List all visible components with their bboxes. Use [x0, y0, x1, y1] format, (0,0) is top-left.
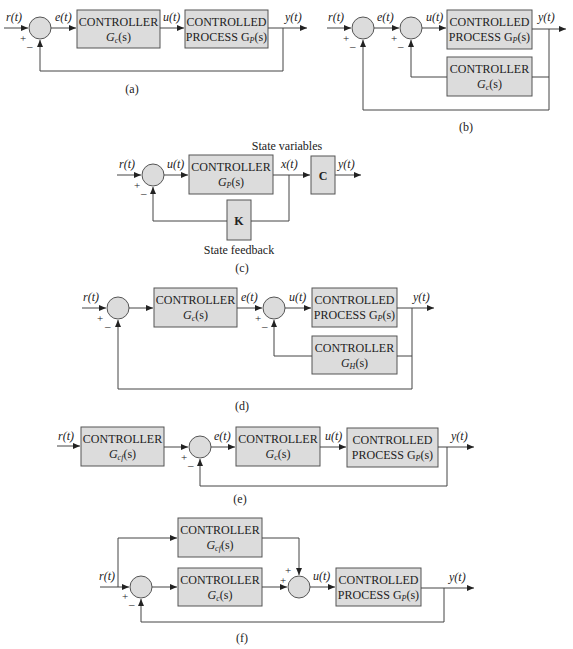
signal-r: r(t) [83, 290, 99, 304]
block-label: CONTROLLED [187, 15, 267, 29]
transfer-function: PROCESS GP(s) [449, 30, 530, 45]
signal-e: e(t) [55, 10, 72, 24]
minus-sign: – [397, 40, 404, 52]
control-configurations-figure: r(t) e(t) u(t) y(t) + – CONTROLLER Gc(s)… [0, 0, 573, 649]
summing-junction-control [288, 576, 310, 598]
signal-r: r(t) [6, 10, 22, 24]
summing-junction-outer [107, 297, 129, 319]
signal-x: x(t) [280, 157, 298, 171]
signal-e: e(t) [214, 429, 231, 443]
transfer-function: PROCESS GP(s) [314, 308, 395, 323]
block-label: CONTROLLER [191, 160, 270, 174]
summing-junction-outer [352, 17, 374, 39]
minus-sign: – [187, 459, 194, 471]
block-label-k: K [234, 214, 244, 228]
signal-y: y(t) [337, 157, 355, 171]
block-label: CONTROLLED [353, 433, 433, 447]
minus-sign: – [104, 320, 111, 332]
summing-junction-inner [263, 297, 285, 319]
diagram-c: r(t) u(t) x(t) y(t) + – State variables … [117, 139, 361, 275]
minus-sign: – [140, 187, 147, 199]
signal-y: y(t) [448, 570, 466, 584]
diagram-a: r(t) e(t) u(t) y(t) + – CONTROLLER Gc(s)… [4, 10, 307, 96]
minus-sign: – [261, 320, 268, 332]
signal-e: e(t) [377, 10, 394, 24]
block-label: CONTROLLER [315, 341, 394, 355]
state-feedback-label: State feedback [204, 243, 274, 257]
minus-sign: – [26, 40, 33, 52]
block-label: CONTROLLER [83, 432, 162, 446]
summing-junction [142, 164, 164, 186]
block-label: CONTROLLER [238, 432, 317, 446]
signal-r: r(t) [58, 429, 74, 443]
signal-u: u(t) [426, 10, 443, 24]
signal-u: u(t) [163, 10, 180, 24]
summing-junction [29, 17, 51, 39]
plus-sign: + [20, 32, 26, 44]
signal-r: r(t) [99, 569, 115, 583]
signal-y: y(t) [450, 429, 468, 443]
block-label-c: C [319, 169, 328, 183]
signal-r: r(t) [119, 157, 135, 171]
block-label: CONTROLLED [315, 293, 395, 307]
signal-y: y(t) [412, 290, 430, 304]
signal-y: y(t) [284, 10, 302, 24]
caption: (e) [233, 492, 246, 506]
signal-y: y(t) [537, 10, 555, 24]
transfer-function: GP(s) [218, 175, 244, 190]
transfer-function: Gc(s) [477, 77, 502, 92]
diagram-b: r(t) e(t) u(t) y(t) + – + – CONTROLLED P… [327, 10, 566, 134]
block-label: CONTROLLER [156, 293, 235, 307]
caption: (d) [235, 399, 249, 413]
diagram-f: r(t) u(t) y(t) + – + + CONTROLLER Gcf(s)… [99, 518, 474, 645]
plus-sign: + [181, 451, 187, 463]
transfer-function: Gcf(s) [109, 447, 136, 462]
caption: (c) [235, 261, 248, 275]
diagram-d: r(t) e(t) u(t) y(t) + – + – CONTROLLER G… [82, 288, 434, 413]
diagram-e: r(t) e(t) u(t) y(t) + – CONTROLLER Gcf(s… [57, 427, 474, 506]
summing-junction [189, 436, 211, 458]
plus-sign: + [255, 312, 261, 324]
signal-u: u(t) [313, 569, 330, 583]
block-label: CONTROLLER [79, 15, 158, 29]
plus-sign: + [122, 590, 128, 602]
signal-r: r(t) [328, 10, 344, 24]
block-label: CONTROLLER [450, 62, 529, 76]
block-label: CONTROLLER [180, 573, 259, 587]
plus-sign: + [134, 179, 140, 191]
inner-feedback-path [274, 320, 312, 356]
inner-feedback-path [411, 40, 447, 77]
transfer-function: Gcf(s) [206, 538, 233, 553]
signal-u: u(t) [167, 157, 184, 171]
summing-junction-inner [400, 17, 422, 39]
minus-sign: – [128, 598, 135, 610]
block-label: CONTROLLED [450, 15, 530, 29]
transfer-function: Gc(s) [208, 588, 233, 603]
plus-sign: + [391, 32, 397, 44]
transfer-function: Gc(s) [183, 308, 208, 323]
transfer-function: PROCESS GP(s) [186, 30, 267, 45]
plus-sign: + [285, 564, 291, 576]
signal-u: u(t) [325, 429, 342, 443]
minus-sign: – [349, 40, 356, 52]
state-variables-label: State variables [252, 139, 323, 153]
transfer-function: PROCESS GP(s) [338, 588, 419, 603]
caption: (b) [459, 120, 473, 134]
caption: (a) [125, 82, 138, 96]
transfer-function: GH(s) [341, 356, 368, 371]
plus-sign: + [343, 32, 349, 44]
signal-e: e(t) [241, 290, 258, 304]
block-label: CONTROLLED [339, 573, 419, 587]
plus-sign: + [97, 312, 103, 324]
signal-u: u(t) [289, 290, 306, 304]
feedforward-output-path [262, 538, 299, 575]
block-label: CONTROLLER [180, 523, 259, 537]
summing-junction-error [130, 576, 152, 598]
transfer-function: Gc(s) [266, 447, 291, 462]
caption: (f) [236, 631, 248, 645]
transfer-function: Gc(s) [106, 30, 131, 45]
transfer-function: PROCESS GP(s) [352, 448, 433, 463]
